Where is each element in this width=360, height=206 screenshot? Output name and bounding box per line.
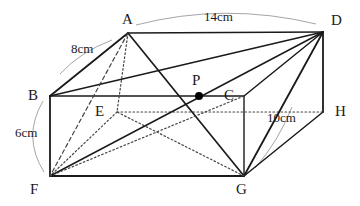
vertex-label-b: B — [28, 88, 38, 103]
vertex-label-g: G — [236, 182, 247, 197]
geometry-canvas — [0, 0, 360, 206]
vertex-label-c: C — [224, 88, 234, 103]
diagonal-f-c-hidden — [50, 96, 244, 176]
dimension-label-8cm: 8cm — [71, 42, 93, 55]
vertex-label-e: E — [95, 104, 104, 119]
edge-a-e-hidden — [117, 33, 128, 112]
vertex-label-a: A — [122, 12, 133, 27]
edge-e-f-hidden — [50, 112, 117, 176]
dimension-leader-lines — [33, 13, 316, 172]
vertex-label-f: F — [30, 182, 38, 197]
dimension-label-14cm: 14cm — [204, 10, 233, 23]
vertex-label-d: D — [331, 13, 342, 28]
dimension-label-10cm: 10cm — [267, 111, 296, 124]
cuboid-diagram: ADBCEHFGP 8cm14cm6cm10cm — [0, 0, 360, 206]
marked-points — [195, 92, 203, 100]
dimension-label-6cm: 6cm — [15, 126, 37, 139]
point-marker-p — [195, 92, 203, 100]
point-label-p: P — [192, 73, 200, 88]
vertex-label-h: H — [335, 104, 346, 119]
edge-a-d — [128, 32, 323, 33]
